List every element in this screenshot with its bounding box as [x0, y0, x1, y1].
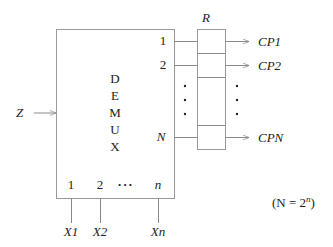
select-index-2: 2: [97, 177, 104, 192]
select-input-xn: Xn: [150, 224, 165, 239]
output-index-2: 2: [160, 57, 167, 72]
demux-letter-m: M: [109, 105, 121, 120]
left-ellipsis-icon: [184, 85, 186, 115]
output-index-n: N: [156, 129, 167, 144]
demux-letter-e: E: [111, 88, 119, 103]
demux-letter-x: X: [110, 139, 120, 154]
register-r: [198, 30, 226, 150]
output-label-cp1: CP1: [258, 34, 281, 49]
formula-note: (N = 2n): [272, 194, 315, 210]
input-label-z: Z: [16, 105, 24, 120]
select-index-n: n: [155, 177, 162, 192]
demux-letter-d: D: [110, 71, 119, 86]
select-ellipsis: • • •: [118, 180, 132, 190]
output-index-1: 1: [160, 33, 167, 48]
demux-letter-u: U: [110, 122, 120, 137]
right-ellipsis-icon: [236, 85, 238, 115]
demux-label: D E M U X: [109, 71, 121, 154]
register-label: R: [201, 10, 210, 25]
demux-diagram: D E M U X Z 1 2 N R CP1 CP2 CPN 1 2 • • …: [0, 0, 333, 247]
output-label-cpn: CPN: [258, 130, 285, 145]
select-input-x1: X1: [63, 224, 78, 239]
select-input-x2: X2: [92, 224, 108, 239]
select-index-1: 1: [68, 177, 75, 192]
output-label-cp2: CP2: [258, 58, 282, 73]
formula-note-main: (N = 2: [272, 195, 306, 210]
formula-note-close: ): [311, 195, 315, 210]
